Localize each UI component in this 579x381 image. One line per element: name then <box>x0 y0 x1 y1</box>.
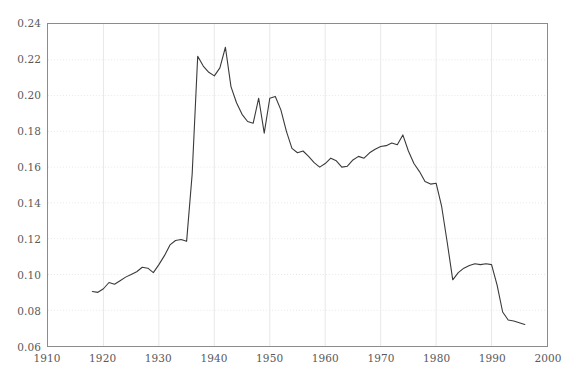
y-axis-tick-label: 0.12 <box>17 233 41 245</box>
y-axis-tick-label: 0.10 <box>17 269 41 281</box>
x-axis-tick-label: 1910 <box>33 352 60 364</box>
y-axis-tick-label: 0.22 <box>17 53 41 65</box>
chart-figure: 0.060.080.100.120.140.160.180.200.220.24… <box>0 0 579 381</box>
x-axis-tick-label: 1960 <box>312 352 339 364</box>
y-axis-tick-label: 0.20 <box>17 89 41 101</box>
x-axis-tick-label: 1990 <box>479 352 506 364</box>
plot-area <box>47 23 548 347</box>
x-axis-tick-labels: 1910192019301940195019601970198019902000 <box>47 352 548 368</box>
y-axis-tick-label: 0.16 <box>17 161 41 173</box>
x-axis-tick-label: 1980 <box>423 352 450 364</box>
data-line-layer <box>48 24 547 346</box>
x-axis-tick-label: 1940 <box>200 352 227 364</box>
x-axis-tick-label: 1950 <box>256 352 283 364</box>
data-line-1 <box>92 47 524 324</box>
y-axis-tick-labels: 0.060.080.100.120.140.160.180.200.220.24 <box>0 23 41 347</box>
y-axis-tick-label: 0.08 <box>17 305 41 317</box>
y-axis-tick-label: 0.18 <box>17 125 41 137</box>
x-axis-tick-label: 1920 <box>89 352 116 364</box>
y-axis-tick-label: 0.24 <box>17 17 41 29</box>
x-axis-tick-label: 1970 <box>367 352 394 364</box>
y-axis-tick-label: 0.14 <box>17 197 41 209</box>
x-axis-tick-label: 2000 <box>534 352 561 364</box>
x-axis-tick-label: 1930 <box>145 352 172 364</box>
